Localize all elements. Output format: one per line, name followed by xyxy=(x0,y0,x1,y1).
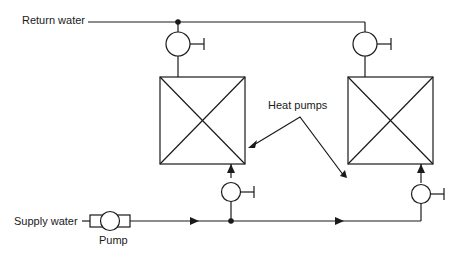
heat-pump-2 xyxy=(348,77,433,164)
valve-icon xyxy=(222,183,255,202)
pump-icon xyxy=(90,212,130,231)
flow-arrow-icon xyxy=(417,164,425,173)
flow-arrow-icon xyxy=(335,217,344,225)
supply-junction-dot xyxy=(229,219,233,223)
valve-icon xyxy=(166,32,204,56)
heat-pumps-leader xyxy=(252,117,344,176)
supply-water-label: Supply water xyxy=(14,216,78,227)
pump-label: Pump xyxy=(99,235,128,246)
flow-arrow-icon xyxy=(227,164,235,173)
heat-pump-1 xyxy=(160,77,245,164)
valve-icon xyxy=(353,32,391,56)
valve-icon xyxy=(412,185,445,204)
flow-arrow-icon xyxy=(190,217,199,225)
leader-arrowhead-icon xyxy=(248,140,257,148)
return-water-label: Return water xyxy=(22,15,85,26)
heat-pumps-label: Heat pumps xyxy=(268,100,327,111)
